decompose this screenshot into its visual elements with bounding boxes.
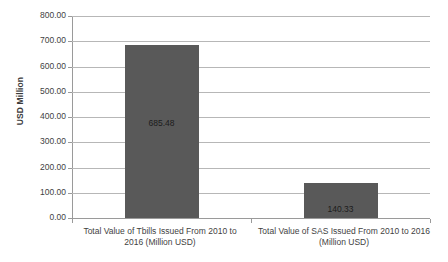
y-axis-tick-label: 300.00 — [10, 136, 66, 146]
plot-area: 685.48140.33 — [72, 16, 430, 218]
y-axis-tick-label: 400.00 — [10, 111, 66, 121]
bar-value-label: 685.48 — [125, 118, 199, 128]
y-axis-tick-label: 0.00 — [10, 212, 66, 222]
y-axis-tick-label: 200.00 — [10, 162, 66, 172]
gridline — [72, 16, 430, 17]
y-axis-tick-label: 100.00 — [10, 187, 66, 197]
x-axis-tick — [72, 219, 73, 223]
y-axis-tick-label: 500.00 — [10, 86, 66, 96]
bar[interactable]: 685.48 — [125, 45, 199, 218]
x-axis-category-label-0: Total Value of Tbills Issued From 2010 t… — [60, 226, 260, 248]
category-label-line-2: 2016 (Million USD) — [60, 237, 260, 248]
category-label-line-2: (Million USD) — [244, 237, 444, 248]
x-axis-category-label-1: Total Value of SAS Issued From 2010 to 2… — [244, 226, 444, 248]
category-label-line-1: Total Value of Tbills Issued From 2010 t… — [60, 226, 260, 237]
bar[interactable]: 140.33 — [304, 183, 378, 218]
category-label-line-1: Total Value of SAS Issued From 2010 to 2… — [244, 226, 444, 237]
gridline — [72, 41, 430, 42]
y-axis-tick-label: 600.00 — [10, 61, 66, 71]
y-axis-tick-label: 700.00 — [10, 35, 66, 45]
y-axis-tick-label: 800.00 — [10, 10, 66, 20]
x-axis-tick — [251, 219, 252, 223]
bar-chart: USD Million 800.00700.00600.00500.00400.… — [0, 0, 448, 262]
bar-value-label: 140.33 — [304, 204, 378, 214]
x-axis-tick — [430, 219, 431, 223]
